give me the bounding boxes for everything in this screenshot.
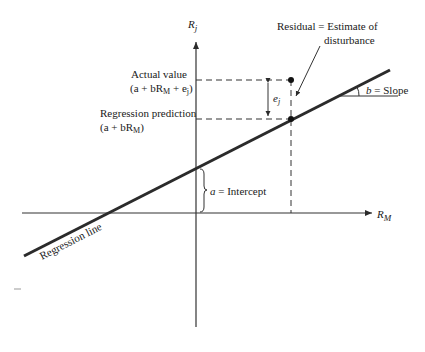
slope-label: b = Slope: [366, 84, 408, 96]
regression-line-label: Regression line: [37, 220, 103, 262]
prediction-label-line2: (a + bRM): [100, 121, 144, 135]
actual-value-label-line1: Actual value: [131, 68, 187, 80]
error-label: ej: [273, 92, 281, 106]
actual-point: [288, 77, 294, 83]
intercept-label: a = Intercept: [210, 185, 266, 197]
slope-arc-icon: [357, 87, 359, 96]
actual-value-label-line2: (a + bRM + ej): [130, 82, 193, 96]
x-axis-label: RM: [376, 208, 392, 223]
predicted-point: [288, 116, 294, 122]
y-axis-label: Rj: [187, 18, 198, 33]
residual-pointer-arrow: [296, 46, 320, 96]
residual-label-line2: disturbance: [324, 34, 375, 46]
regression-line: [24, 70, 390, 256]
regression-diagram: Rj RM Residual = Estimate of disturbance…: [0, 0, 425, 352]
prediction-label-line1: Regression prediction: [100, 107, 197, 119]
residual-label-line1: Residual = Estimate of: [277, 20, 378, 32]
intercept-brace-icon: [200, 169, 207, 212]
